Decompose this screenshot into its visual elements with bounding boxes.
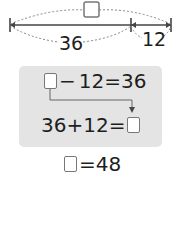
- unknown-box: [127, 117, 140, 133]
- operand: 12: [83, 114, 108, 136]
- result: 36: [121, 70, 146, 92]
- operator: −: [59, 70, 76, 92]
- operand: 12: [79, 70, 104, 92]
- operator: +: [66, 114, 83, 136]
- unknown-box: [44, 73, 57, 89]
- equation-1: − 12 = 36: [42, 70, 146, 92]
- equals-sign: =: [79, 153, 96, 175]
- operand: 36: [41, 114, 66, 136]
- equals-sign: =: [109, 114, 126, 136]
- equals-sign: =: [104, 70, 121, 92]
- answer-value: 48: [96, 153, 121, 175]
- unknown-box: [64, 156, 77, 172]
- answer-equation: = 48: [62, 153, 121, 175]
- equation-2: 36 + 12 =: [41, 114, 142, 136]
